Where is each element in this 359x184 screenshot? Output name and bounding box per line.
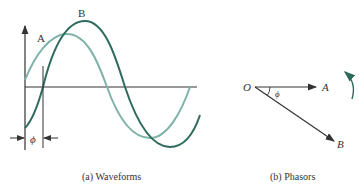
waveforms-caption: (a) Waveforms — [82, 171, 141, 183]
phasor-a-label: A — [321, 81, 329, 93]
phase-symbol: ϕ — [30, 133, 36, 145]
diagram: A B ϕ (a) Waveforms O A B ϕ (b) Phasors — [0, 0, 359, 184]
phasor-b-label: B — [337, 138, 344, 150]
rotation-arrow-icon — [345, 72, 353, 99]
phasor-b — [255, 87, 334, 141]
phasors-panel: O A B ϕ (b) Phasors — [243, 72, 353, 183]
waveform-a — [25, 34, 190, 138]
origin-label: O — [243, 81, 251, 93]
phase-angle-arc — [267, 87, 270, 96]
wave-b-label: B — [78, 7, 85, 19]
phasor-phase-symbol: ϕ — [275, 89, 280, 99]
waveforms-panel: A B ϕ (a) Waveforms — [10, 7, 200, 183]
phasors-caption: (b) Phasors — [270, 171, 315, 183]
wave-a-label: A — [37, 32, 45, 44]
